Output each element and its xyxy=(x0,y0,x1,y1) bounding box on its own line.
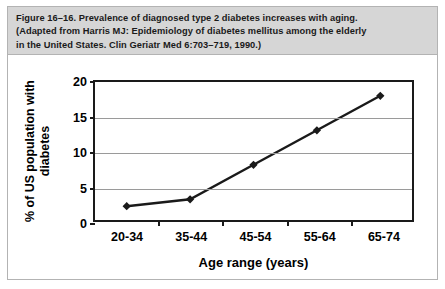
y-axis-tick-label: 15 xyxy=(73,111,87,124)
y-axis-tick-label: 5 xyxy=(80,182,87,195)
y-axis-title-line-1: % of US population with xyxy=(23,80,37,222)
x-axis-tick xyxy=(287,220,289,226)
gridline xyxy=(95,189,412,190)
x-axis-tick-label: 55-64 xyxy=(304,231,336,244)
x-axis-tick-label: 20-34 xyxy=(111,231,143,244)
y-axis-title-line-2: diabetes xyxy=(38,126,52,176)
x-axis-tick-label: 35-44 xyxy=(175,231,207,244)
y-axis-tick xyxy=(90,81,95,83)
y-axis-tick xyxy=(90,117,95,119)
y-axis-tick xyxy=(90,188,95,190)
x-axis-tick xyxy=(351,220,353,226)
y-axis-title: % of US population with diabetes xyxy=(18,80,58,222)
chart-region: % of US population with diabetes 0510152… xyxy=(8,55,437,279)
gridline xyxy=(95,118,412,119)
data-point-marker xyxy=(123,202,131,210)
gridline xyxy=(95,153,412,154)
x-axis-title: Age range (years) xyxy=(93,255,414,270)
y-axis-tick-label: 20 xyxy=(73,76,87,89)
y-axis-tick-label: 0 xyxy=(80,218,87,231)
figure-caption: Figure 16–16. Prevalence of diagnosed ty… xyxy=(8,7,437,55)
caption-line-2: (Adapted from Harris MJ: Epidemiology of… xyxy=(16,25,429,38)
y-axis-tick xyxy=(90,152,95,154)
caption-line-1: Figure 16–16. Prevalence of diagnosed ty… xyxy=(16,12,429,25)
x-axis-tick-label: 45-54 xyxy=(240,231,272,244)
y-axis-tick xyxy=(90,223,95,225)
y-axis-tick-label: 10 xyxy=(73,147,87,160)
figure-frame: Figure 16–16. Prevalence of diagnosed ty… xyxy=(7,6,438,280)
x-axis-tick-label: 65-74 xyxy=(368,231,400,244)
plot-area: 0510152020-3435-4445-5455-6465-74 xyxy=(93,80,414,222)
x-axis-tick xyxy=(158,220,160,226)
caption-line-3: in the United States. Clin Geriatr Med 6… xyxy=(16,39,429,52)
series-line-chart xyxy=(95,82,412,220)
figure-root: Figure 16–16. Prevalence of diagnosed ty… xyxy=(0,0,445,289)
series-line xyxy=(127,96,381,206)
x-axis-tick xyxy=(222,220,224,226)
